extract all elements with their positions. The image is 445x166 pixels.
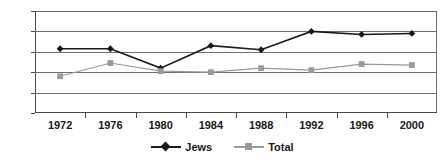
- chart-legend: Jews Total: [0, 141, 445, 153]
- data-point-total-2000: [409, 62, 415, 68]
- legend-label-jews: Jews: [185, 142, 212, 153]
- data-point-jews-1984: [207, 42, 214, 49]
- legend-label-total: Total: [268, 142, 293, 153]
- data-point-total-1972: [57, 73, 63, 79]
- data-point-total-1976: [107, 60, 113, 66]
- series-total: [57, 60, 415, 79]
- data-point-jews-1992: [308, 28, 315, 35]
- data-point-total-1996: [359, 61, 365, 67]
- line-chart: 020406080100 197219761980198419881992199…: [0, 0, 445, 166]
- data-point-jews-2000: [408, 30, 415, 37]
- data-point-jews-1976: [107, 45, 114, 52]
- data-point-jews-1972: [57, 45, 64, 52]
- data-point-total-1988: [258, 65, 264, 71]
- data-point-jews-1988: [258, 46, 265, 53]
- data-point-total-1984: [208, 69, 214, 75]
- data-point-total-1980: [158, 68, 164, 74]
- legend-marker-diamond-icon: [151, 141, 181, 153]
- legend-item-jews: Jews: [151, 141, 212, 153]
- data-point-total-1992: [308, 67, 314, 73]
- data-point-jews-1996: [358, 31, 365, 38]
- legend-marker-square-icon: [234, 141, 264, 153]
- legend-item-total: Total: [234, 141, 293, 153]
